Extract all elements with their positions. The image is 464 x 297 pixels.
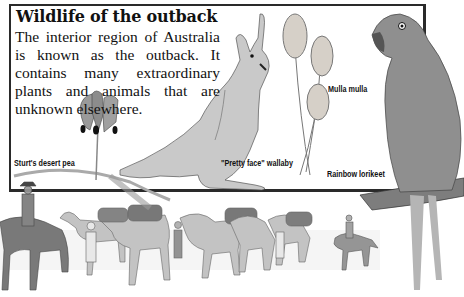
page-title: Wildlife of the outback [16,7,217,26]
intro-paragraph: The interior region of Australia is know… [15,28,220,118]
desert-pea-label: Sturt's desert pea [14,158,75,168]
caravan-illustration [0,182,380,290]
wallaby-label: "Pretty face" wallaby [221,158,293,168]
mulla-mulla-label: Mulla mulla [328,84,367,94]
lorikeet-label: Rainbow lorikeet [327,169,385,179]
mulla-mulla-illustration [283,14,333,175]
